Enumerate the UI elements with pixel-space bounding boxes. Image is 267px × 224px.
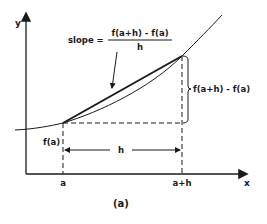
x-axis-label: x <box>244 178 250 188</box>
slope-numerator: f(a+h) - f(a) <box>111 28 168 38</box>
secant-slope-diagram: slope = f(a+h) - f(a) h f(a+h) - f(a) f(… <box>0 0 267 224</box>
tick-label-a: a <box>60 178 66 188</box>
fa-label: f(a) <box>43 137 60 147</box>
slope-denominator: h <box>137 42 143 52</box>
h-label: h <box>118 145 124 155</box>
y-axis-label: y <box>15 18 21 28</box>
figure-caption: (a) <box>113 198 129 209</box>
slope-prefix: slope = <box>68 35 104 45</box>
rise-brace <box>183 56 191 123</box>
rise-label: f(a+h) - f(a) <box>193 84 250 94</box>
slope-pointer-arrow <box>112 52 117 88</box>
tick-label-a-plus-h: a+h <box>173 178 192 188</box>
secant-line <box>63 56 182 123</box>
